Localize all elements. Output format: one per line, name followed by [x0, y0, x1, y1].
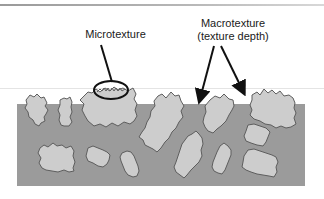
- macrotexture-arrow-right: [221, 46, 243, 91]
- microtexture-leader-line: [101, 45, 112, 82]
- aggregate-3: [80, 87, 137, 127]
- microtexture-label: Microtexture: [68, 28, 163, 41]
- macrotexture-label-line1: Macrotexture: [178, 17, 288, 30]
- macrotexture-arrow-left: [200, 46, 214, 99]
- aggregate-9: [38, 143, 75, 172]
- aggregate-2: [58, 97, 72, 126]
- macrotexture-label-line2: (texture depth): [178, 30, 288, 43]
- macrotexture-label: Macrotexture (texture depth): [178, 17, 288, 43]
